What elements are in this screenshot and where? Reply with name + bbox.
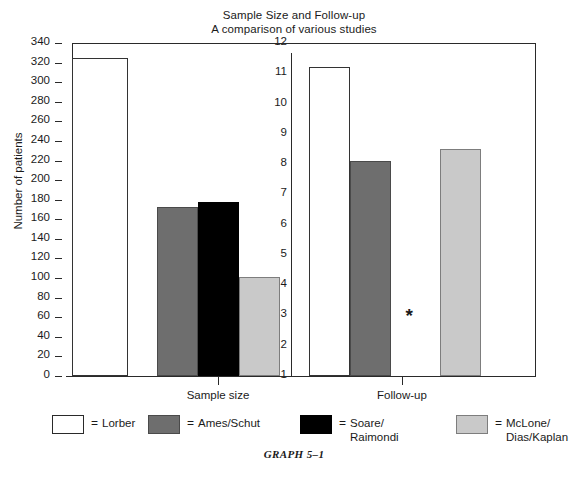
left-axis-tick-label: 300 (12, 74, 50, 86)
legend-label: McLone/ Dias/Kaplan (506, 414, 568, 444)
left-axis-tick-label: 260 (12, 113, 50, 125)
left-axis-tick-mark (55, 317, 62, 318)
legend-swatch-lgray (456, 415, 488, 434)
left-axis-tick-mark (55, 121, 62, 122)
left-axis-tick-mark (55, 102, 62, 103)
bar-follow-up-dgray (350, 161, 391, 376)
legend-label: Lorber (102, 414, 135, 430)
chart-title-line2: A comparison of various studies (0, 22, 588, 36)
left-axis-tick-label: 340 (12, 35, 50, 47)
left-axis-tick-label: 200 (12, 172, 50, 184)
left-axis-tick-label: 180 (12, 192, 50, 204)
left-axis-tick-mark (55, 82, 62, 83)
bar-sample-size-lgray (239, 277, 280, 376)
plot-frame-right (535, 43, 536, 377)
legend-equals-sign: = (495, 414, 502, 433)
group-label-sample-size: Sample size (148, 389, 288, 401)
left-axis-tick-label: 40 (12, 329, 50, 341)
left-axis-tick-mark (55, 356, 62, 357)
legend-item-ames-schut: =Ames/Schut (148, 414, 260, 434)
left-axis-tick-label: 320 (12, 55, 50, 67)
left-axis-tick-label: 220 (12, 153, 50, 165)
chart-title: Sample Size and Follow-up A comparison o… (0, 8, 588, 36)
plot-divider-middle (291, 53, 292, 376)
left-axis-tick-label: 100 (12, 270, 50, 282)
legend-equals-sign: = (187, 414, 194, 433)
group-tick-1 (218, 377, 219, 385)
legend-label: Ames/Schut (198, 414, 260, 430)
left-axis-tick-label: 280 (12, 94, 50, 106)
chart-title-line1: Sample Size and Follow-up (0, 8, 588, 22)
graph-caption: GRAPH 5–1 (0, 448, 588, 460)
left-axis-tick-mark (55, 200, 62, 201)
missing-data-asterisk: * (406, 311, 413, 321)
left-axis-tick-label: 140 (12, 231, 50, 243)
bar-sample-size-dgray (157, 207, 198, 376)
bar-follow-up-white (309, 67, 350, 376)
left-axis-tick-mark (55, 239, 62, 240)
group-tick-2 (402, 377, 403, 385)
left-axis-tick-label: 240 (12, 133, 50, 145)
left-axis: 0204060801001201401601802002202402602803… (12, 43, 62, 377)
plot-frame-top (72, 43, 536, 44)
left-axis-tick-mark (55, 43, 62, 44)
left-axis-tick-label: 120 (12, 250, 50, 262)
legend-label: Soare/ Raimondi (350, 414, 399, 444)
legend-item-mclone-dias-kaplan: =McLone/ Dias/Kaplan (456, 414, 568, 444)
legend-equals-sign: = (339, 414, 346, 433)
left-axis-tick-mark (55, 161, 62, 162)
left-axis-tick-label: 60 (12, 309, 50, 321)
left-axis-tick-mark (55, 298, 62, 299)
left-axis-tick-mark (55, 219, 62, 220)
legend-equals-sign: = (91, 414, 98, 433)
left-axis-tick-mark (55, 141, 62, 142)
left-axis-tick-mark (55, 258, 62, 259)
left-axis-tick-mark (55, 180, 62, 181)
left-axis-tick-mark (55, 278, 62, 279)
bar-sample-size-black (198, 202, 239, 376)
left-axis-tick-mark (55, 376, 62, 377)
bar-sample-size-white (72, 58, 128, 376)
left-axis-tick-mark (55, 337, 62, 338)
left-axis-tick-mark (55, 63, 62, 64)
legend-item-lorber: =Lorber (52, 414, 135, 434)
legend-swatch-black (300, 415, 332, 434)
left-axis-tick-label: 0 (12, 368, 50, 380)
group-label-follow-up: Follow-up (332, 389, 472, 401)
legend-swatch-white (52, 415, 84, 434)
plot-frame-bottom (66, 376, 536, 377)
legend-swatch-dgray (148, 415, 180, 434)
legend-item-soare-raimondi: =Soare/ Raimondi (300, 414, 399, 444)
bar-follow-up-lgray (440, 149, 481, 376)
left-axis-tick-label: 80 (12, 290, 50, 302)
plot-area: * (72, 43, 536, 377)
left-axis-tick-label: 20 (12, 348, 50, 360)
left-axis-tick-label: 160 (12, 211, 50, 223)
